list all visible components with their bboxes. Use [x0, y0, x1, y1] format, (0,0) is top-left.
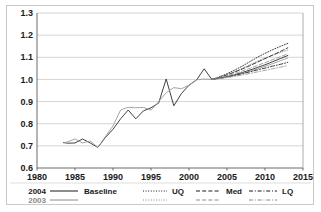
data-series-group — [64, 43, 288, 147]
x-tick-2010: 2010 — [255, 172, 275, 182]
x-tick-1995: 1995 — [141, 172, 161, 182]
x-tick-2005: 2005 — [217, 172, 237, 182]
legend-label-baseline: Baseline — [84, 187, 117, 196]
series-line-2003-med — [212, 54, 288, 80]
legend-label-uq: UQ — [172, 187, 184, 196]
y-tick-0.8: 0.8 — [20, 119, 33, 129]
x-axis-tick-labels: 19801985199019952000200520102015 — [27, 168, 313, 182]
y-axis-tick-labels: 0.60.70.80.91.01.11.21.3 — [20, 8, 33, 173]
x-tick-1980: 1980 — [27, 172, 47, 182]
legend-label-lq: LQ — [282, 187, 293, 196]
y-tick-1.0: 1.0 — [20, 75, 33, 85]
y-tick-0.7: 0.7 — [20, 141, 33, 151]
chart-figure: 0.60.70.80.91.01.11.21.3 198019851990199… — [0, 0, 321, 212]
y-tick-1.1: 1.1 — [20, 52, 33, 62]
line-chart: 0.60.70.80.91.01.11.21.3 198019851990199… — [0, 0, 321, 212]
x-tick-2000: 2000 — [179, 172, 199, 182]
series-line-2004-uq — [212, 43, 288, 79]
y-tick-1.2: 1.2 — [20, 30, 33, 40]
x-tick-1990: 1990 — [103, 172, 123, 182]
x-tick-2015: 2015 — [293, 172, 313, 182]
series-line-2003-uq — [212, 50, 288, 79]
legend-label-med: Med — [226, 187, 242, 196]
series-line-2004-med — [212, 48, 288, 80]
x-tick-1985: 1985 — [65, 172, 85, 182]
y-tick-1.3: 1.3 — [20, 8, 33, 18]
legend-vintage-label-2003: 2003 — [28, 196, 46, 205]
chart-legend: 20042003BaselineUQMedLQ — [10, 183, 310, 205]
legend-vintage-label-2004: 2004 — [28, 187, 46, 196]
y-tick-0.9: 0.9 — [20, 97, 33, 107]
